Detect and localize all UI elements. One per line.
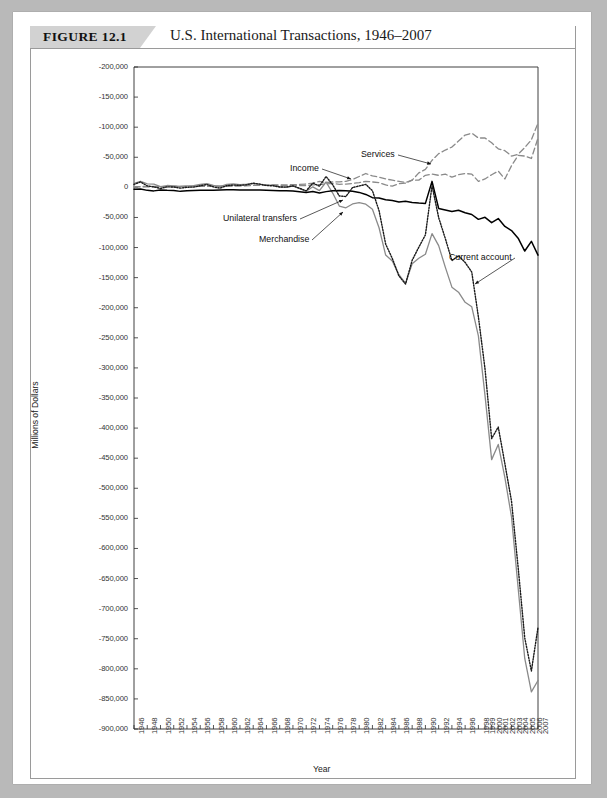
y-tick-label: -550,000 [72,513,128,522]
y-axis-title: Millions of Dollars [30,355,40,475]
y-tick-label: -400,000 [72,423,128,432]
x-tick-label: 1956 [203,718,212,735]
y-tick-label: -200,000 [72,62,128,71]
x-tick-label: 2007 [541,718,550,735]
x-tick-label: 1946 [137,718,146,735]
y-tick-label: -350,000 [72,393,128,402]
y-tick-label: 0 [72,182,128,191]
x-tick-label: 1996 [468,718,477,735]
y-tick-label: -100,000 [72,122,128,131]
x-tick-label: 1984 [389,718,398,735]
x-tick-label: 1964 [256,718,265,735]
annotation-merchandise: Merchandise [259,234,309,244]
x-tick-label: 1994 [455,718,464,735]
annotation-unilateral-transfers: Unilateral transfers [223,213,297,223]
annotation-services: Services [361,149,395,159]
series-line-income [134,138,538,187]
x-tick-label: 1948 [150,718,159,735]
annotation-current-account: Current account [449,252,512,262]
x-tick-label: 1992 [442,718,451,735]
x-tick-label: 1972 [309,718,318,735]
x-tick-label: 1978 [349,718,358,735]
y-tick-label: -250,000 [72,333,128,342]
x-tick-label: 1960 [230,718,239,735]
y-tick-label: -50,000 [72,212,128,221]
y-tick-label: -850,000 [72,694,128,703]
y-tick-label: -150,000 [72,273,128,282]
y-tick-label: -600,000 [72,543,128,552]
x-tick-label: 1986 [402,718,411,735]
x-axis-title: Year [313,764,330,774]
y-tick-label: -900,000 [72,724,128,733]
figure-page: FIGURE 12.1 U.S. International Transacti… [0,0,607,798]
x-tick-label: 1974 [323,718,332,735]
x-tick-label: 1958 [217,718,226,735]
x-tick-label: 1990 [429,718,438,735]
y-tick-label: -300,000 [72,363,128,372]
y-tick-label: -650,000 [72,574,128,583]
series-line-services [134,123,538,187]
x-tick-label: 1962 [243,718,252,735]
x-tick-label: 1954 [190,718,199,735]
y-tick-label: -150,000 [72,92,128,101]
x-tick-label: 1980 [362,718,371,735]
x-tick-label: 1968 [283,718,292,735]
y-tick-label: -50,000 [72,152,128,161]
annotation-income: Income [290,163,319,173]
series-line-current-account [134,176,538,670]
y-tick-label: -700,000 [72,604,128,613]
y-tick-label: -100,000 [72,243,128,252]
x-tick-label: 1982 [376,718,385,735]
y-tick-label: -450,000 [72,453,128,462]
y-tick-label: -500,000 [72,483,128,492]
chart-container: -200,000-150,000-100,000-50,0000-50,000-… [13,12,591,784]
x-tick-label: 1952 [177,718,186,735]
y-tick-label: -750,000 [72,634,128,643]
y-tick-label: -200,000 [72,303,128,312]
x-tick-label: 1976 [336,718,345,735]
y-tick-label: -800,000 [72,664,128,673]
figure-card: FIGURE 12.1 U.S. International Transacti… [13,12,591,784]
x-tick-label: 1988 [415,718,424,735]
x-tick-label: 1950 [164,718,173,735]
x-tick-label: 1970 [296,718,305,735]
x-tick-label: 1966 [270,718,279,735]
